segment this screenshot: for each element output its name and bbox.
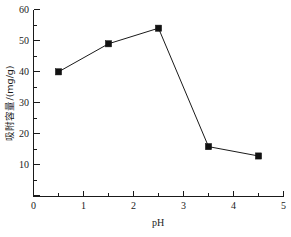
y-axis-title: 吸附容量/(mg/g) bbox=[4, 65, 15, 140]
y-tick-label-40: 40 bbox=[19, 66, 29, 77]
x-tick-label-4: 4 bbox=[231, 200, 236, 211]
y-tick-label-20: 20 bbox=[19, 128, 29, 139]
x-tick-label-2: 2 bbox=[131, 200, 136, 211]
data-point-marker bbox=[155, 25, 161, 31]
data-point-marker bbox=[255, 153, 261, 159]
data-point-marker bbox=[55, 69, 61, 75]
x-tick-label-5: 5 bbox=[281, 200, 286, 211]
y-tick-label-30: 30 bbox=[19, 97, 29, 108]
y-tick-label-50: 50 bbox=[19, 35, 29, 46]
x-tick-label-1: 1 bbox=[81, 200, 86, 211]
series-line-adsorption bbox=[59, 28, 259, 156]
chart-plot-area: 60 50 40 30 20 10 0 1 2 3 4 5 pH 吸附容量/(m… bbox=[0, 0, 291, 237]
data-point-marker bbox=[205, 144, 211, 150]
y-axis-major-ticks bbox=[34, 10, 40, 196]
x-tick-label-3: 3 bbox=[181, 200, 186, 211]
series-markers bbox=[55, 25, 261, 159]
y-tick-label-60: 60 bbox=[19, 4, 29, 15]
data-point-marker bbox=[105, 41, 111, 47]
chart-figure: 60 50 40 30 20 10 0 1 2 3 4 5 pH 吸附容量/(m… bbox=[0, 0, 291, 237]
y-tick-label-10: 10 bbox=[19, 159, 29, 170]
x-axis-title: pH bbox=[152, 217, 164, 228]
x-tick-label-0: 0 bbox=[31, 200, 36, 211]
